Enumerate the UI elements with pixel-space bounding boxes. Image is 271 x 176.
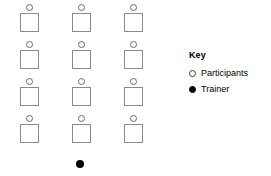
desk-square-icon: [124, 87, 143, 106]
desk-square-icon: [124, 50, 143, 69]
seat-unit-r4c2: [71, 115, 91, 143]
seat-unit-r3c3: [123, 78, 143, 106]
participant-circle-icon: [78, 78, 85, 85]
participant-circle-icon: [130, 115, 137, 122]
desk-square-icon: [20, 13, 39, 32]
participant-circle-icon: [189, 70, 196, 77]
participant-circle-icon: [130, 4, 137, 11]
trainer-filled-circle-icon: [189, 86, 196, 93]
participant-circle-icon: [130, 41, 137, 48]
desk-square-icon: [20, 50, 39, 69]
participant-circle-icon: [78, 115, 85, 122]
participant-circle-icon: [26, 115, 33, 122]
seat-unit-r3c2: [71, 78, 91, 106]
seat-unit-r4c3: [123, 115, 143, 143]
key-item-label: Trainer: [201, 84, 229, 95]
desk-square-icon: [72, 13, 91, 32]
seat-unit-r2c2: [71, 41, 91, 69]
desk-square-icon: [124, 124, 143, 143]
trainer-filled-circle-icon: [76, 160, 84, 168]
key-item-label: Participants: [201, 68, 248, 79]
key-title: Key: [189, 50, 271, 61]
participant-circle-icon: [78, 41, 85, 48]
seat-unit-r2c3: [123, 41, 143, 69]
seat-unit-r2c1: [19, 41, 39, 69]
desk-square-icon: [72, 124, 91, 143]
desk-square-icon: [72, 50, 91, 69]
desk-square-icon: [72, 87, 91, 106]
seating-grid: [0, 0, 160, 176]
participant-circle-icon: [78, 4, 85, 11]
participant-circle-icon: [26, 41, 33, 48]
seat-unit-r1c1: [19, 4, 39, 32]
desk-square-icon: [20, 87, 39, 106]
key-item-trainer: Trainer: [189, 82, 271, 96]
seat-unit-r1c2: [71, 4, 91, 32]
participant-circle-icon: [26, 78, 33, 85]
seat-unit-r3c1: [19, 78, 39, 106]
desk-square-icon: [20, 124, 39, 143]
seating-layout-diagram: Key Participants Trainer: [0, 0, 271, 176]
participant-circle-icon: [130, 78, 137, 85]
key-item-participants: Participants: [189, 66, 271, 80]
desk-square-icon: [124, 13, 143, 32]
participant-circle-icon: [26, 4, 33, 11]
seat-unit-r4c1: [19, 115, 39, 143]
seat-unit-r1c3: [123, 4, 143, 32]
key-legend: Key Participants Trainer: [189, 50, 271, 98]
